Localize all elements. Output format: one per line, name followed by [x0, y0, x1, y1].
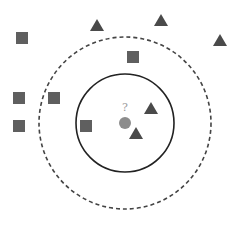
- square-point: [16, 32, 28, 44]
- knn-diagram: ?: [0, 0, 241, 225]
- square-point: [80, 120, 92, 132]
- triangle-point: [90, 19, 104, 31]
- square-point: [13, 92, 25, 104]
- square-point: [48, 92, 60, 104]
- triangle-point: [213, 34, 227, 46]
- query-label: ?: [122, 101, 128, 114]
- square-point: [127, 51, 139, 63]
- triangle-point: [129, 127, 143, 139]
- diagram-canvas: ?: [0, 0, 241, 225]
- square-point: [13, 120, 25, 132]
- triangle-point: [144, 102, 158, 114]
- query-point-circle: [119, 117, 131, 129]
- triangle-point: [154, 14, 168, 26]
